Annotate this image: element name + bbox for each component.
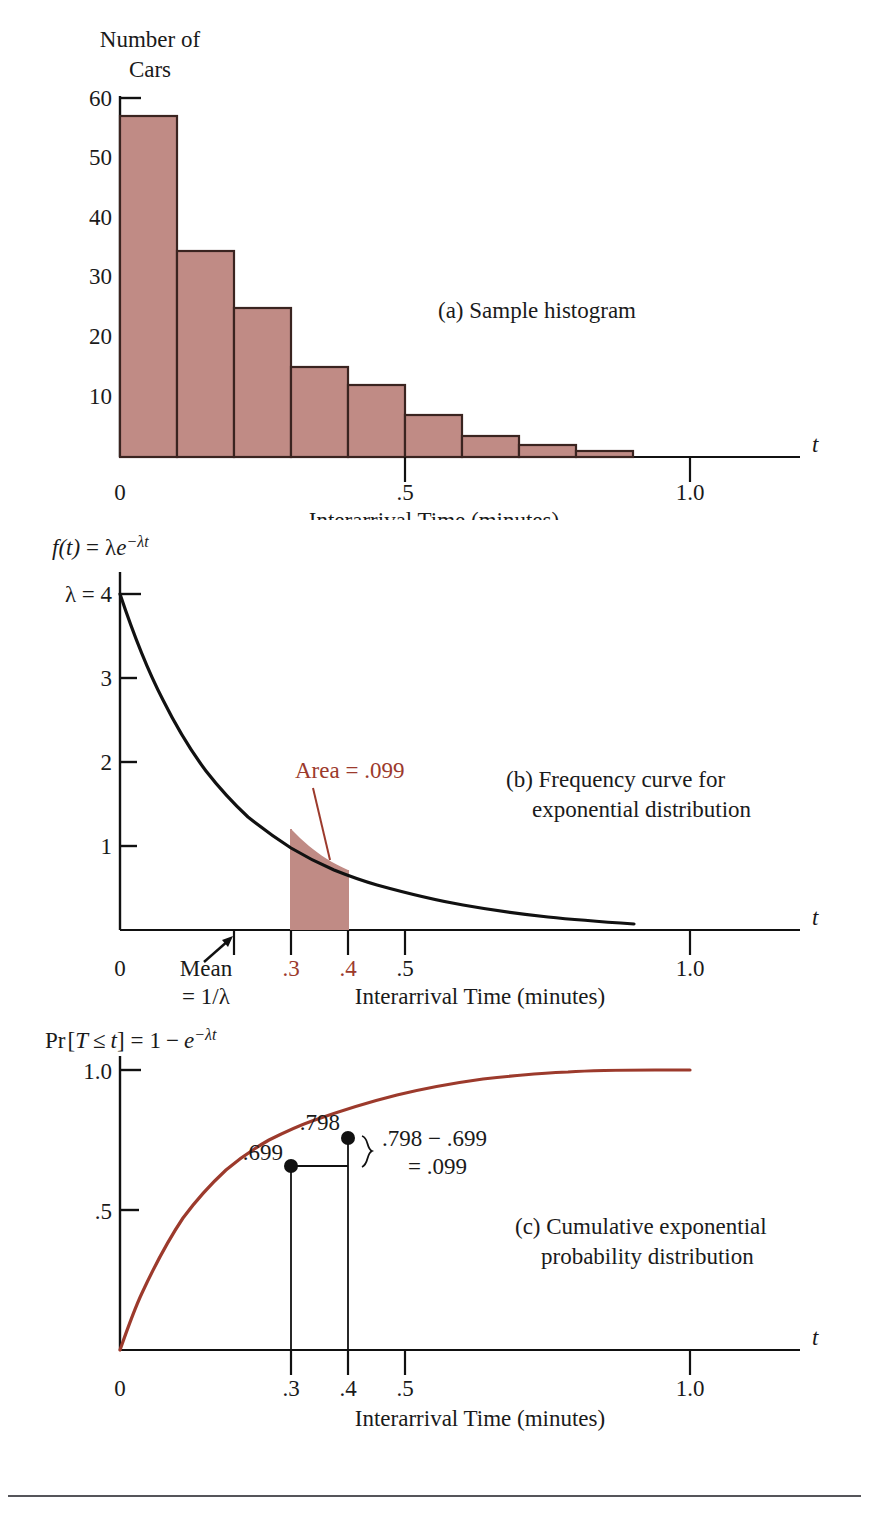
panel-b-mean-label-line2: = 1/λ [182, 984, 231, 1009]
panel-b-x-ticks [234, 930, 690, 955]
panel-c-formula-eq: = [131, 1028, 144, 1053]
panel-c-ytick-one: 1.0 [83, 1059, 112, 1084]
panel-a-bars [120, 116, 633, 457]
panel-c-brace-icon [362, 1136, 372, 1167]
panel-b-formula-eq: = [86, 535, 99, 560]
panel-c-formula-minus: − [166, 1028, 179, 1053]
panel-a-ytick-50: 50 [89, 145, 112, 170]
panel-b-xtick-one: 1.0 [676, 956, 705, 981]
panel-c-diff-line1: .798 − .699 [382, 1126, 487, 1151]
panel-c-xtick-one: 1.0 [676, 1376, 705, 1401]
panel-b-xtick-0: 0 [114, 956, 126, 981]
table-row [120, 116, 177, 457]
panel-a-ytick-40: 40 [89, 205, 112, 230]
panel-a-xaxis-symbol: t [812, 432, 819, 457]
panel-c-formula-le: ≤ [93, 1028, 106, 1053]
panel-c-formula-bracket-close: ] [117, 1028, 125, 1053]
panel-a-x-ticks [405, 457, 690, 482]
panel-a-chart: Number of Cars 60 50 40 30 20 10 0 .5 1.… [0, 0, 869, 520]
panel-b-ytick-2: 2 [101, 750, 113, 775]
panel-b-caption-line2: exponential distribution [532, 797, 752, 822]
panel-b-formula-arg: (t) [58, 535, 80, 560]
table-row [519, 445, 576, 457]
panel-c-diff-line2: = .099 [408, 1154, 467, 1179]
panel-c-xtick-p3: .3 [282, 1376, 299, 1401]
panel-c-formula-bracket-open: [ [67, 1028, 75, 1053]
panel-c-chart: Pr[T≤t]=1−e−λt 1.0 .5 .699 .798 .798 − .… [0, 1010, 869, 1510]
panel-b-xtick-p5: .5 [396, 956, 413, 981]
panel-b-caption-line1: (b) Frequency curve for [506, 767, 725, 792]
panel-b-formula: f(t)=λe−λt [52, 533, 149, 561]
panel-a-xtick-half: .5 [396, 480, 413, 505]
panel-a-ytick-10: 10 [89, 384, 112, 409]
panel-c-formula-one: 1 [150, 1028, 162, 1053]
panel-b-formula-e: e [116, 535, 126, 560]
panel-c-formula-pr: Pr [45, 1028, 66, 1053]
panel-c-point-high-label: .798 [300, 1110, 340, 1135]
panel-c-formula-e: e [184, 1028, 194, 1053]
panel-c-data-point-low [284, 1159, 298, 1173]
svg-text:Pr[T≤t]=1−e−λt: Pr[T≤t]=1−e−λt [45, 1026, 217, 1054]
table-row [576, 451, 633, 457]
table-row [462, 436, 519, 457]
panel-a-caption: (a) Sample histogram [438, 298, 636, 323]
panel-c-xtick-0: 0 [114, 1376, 126, 1401]
svg-text:f(t)=λe−λt: f(t)=λe−λt [52, 533, 149, 561]
panel-b-mean-label-line1: Mean [180, 956, 233, 981]
panel-b-area-leader-line [313, 788, 330, 860]
panel-a-xtick-one: 1.0 [676, 480, 705, 505]
panel-a-yaxis-title-line1: Number of [100, 27, 201, 52]
panel-a-ytick-30: 30 [89, 264, 112, 289]
panel-b-xtick-p4: .4 [339, 956, 357, 981]
panel-c-data-point-high [341, 1131, 355, 1145]
panel-b-ytick-3: 3 [101, 666, 113, 691]
panel-c-ytick-half: .5 [95, 1199, 112, 1224]
panel-b-xtick-p3: .3 [282, 956, 299, 981]
panel-b-ytick-lambda: λ = 4 [65, 582, 113, 607]
table-row [405, 415, 462, 457]
panel-c-xaxis-symbol: t [812, 1325, 819, 1350]
bottom-rule [8, 1495, 861, 1497]
panel-b-formula-exponent: −λt [126, 533, 149, 550]
table-row [348, 385, 405, 457]
panel-c-x-ticks [291, 1350, 690, 1375]
panel-b-xaxis-symbol: t [812, 905, 819, 930]
panel-a-ytick-20: 20 [89, 324, 112, 349]
panel-b-y-ticks [120, 594, 141, 846]
panel-c-formula: Pr[T≤t]=1−e−λt [45, 1026, 217, 1054]
panel-a-yaxis-title-line2: Cars [129, 57, 171, 82]
panel-c-cdf-curve [120, 1070, 690, 1350]
panel-c-xaxis-title: Interarrival Time (minutes) [355, 1406, 605, 1431]
panel-b-area-annotation: Area = .099 [295, 758, 404, 783]
panel-c-formula-T: T [75, 1028, 90, 1053]
panel-a-ytick-60: 60 [89, 86, 112, 111]
table-row [234, 308, 291, 457]
panel-b-shaded-area [291, 829, 348, 930]
panel-c-point-low-label: .699 [243, 1140, 283, 1165]
figure-container: Number of Cars 60 50 40 30 20 10 0 .5 1.… [0, 0, 869, 1513]
panel-a-xaxis-title: Interarrival Time (minutes) [309, 508, 559, 520]
table-row [291, 367, 348, 457]
panel-c-caption-line1: (c) Cumulative exponential [515, 1214, 767, 1239]
panel-c-xtick-p5: .5 [396, 1376, 413, 1401]
table-row [177, 251, 234, 457]
panel-b-chart: f(t)=λe−λt λ = 4 3 2 1 Area = .099 0 .3 … [0, 530, 869, 1010]
panel-b-ytick-1: 1 [101, 834, 113, 859]
panel-c-y-ticks [120, 1070, 141, 1210]
panel-b-xaxis-title: Interarrival Time (minutes) [355, 984, 605, 1009]
panel-c-caption-line2: probability distribution [541, 1244, 754, 1269]
panel-c-xtick-p4: .4 [339, 1376, 357, 1401]
panel-a-xtick-0: 0 [114, 480, 126, 505]
panel-c-formula-exponent: −λt [194, 1026, 217, 1043]
